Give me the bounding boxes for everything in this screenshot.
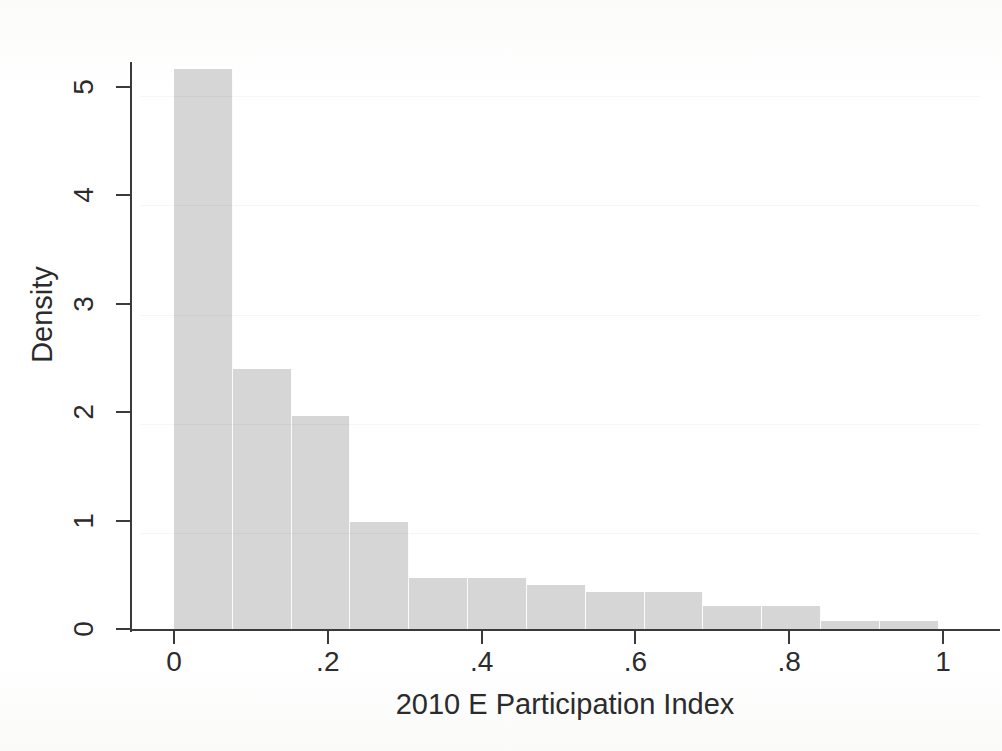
y-axis-tick [116,628,130,630]
y-axis-tick [116,86,130,88]
histogram-bar [880,621,939,629]
y-axis-tick-label: 4 [64,180,104,210]
x-axis-tick [634,631,636,644]
y-axis-tick [116,303,130,305]
y-axis-title: Density [26,235,59,395]
histogram-bar [233,369,292,629]
x-axis-title: 2010 E Participation Index [130,688,1000,721]
histogram-bar [645,592,704,629]
plot-area: 012345 0.2.4.6.81 Density 2010 E Partici… [0,0,1002,751]
x-axis-tick [942,631,944,644]
y-axis-tick-label: 5 [64,72,104,102]
scan-artifact [140,205,980,206]
y-axis-tick-label: 2 [64,397,104,427]
x-axis-tick-label: .8 [759,648,819,676]
y-axis-tick-label: 0 [64,614,104,644]
histogram-bar [586,592,645,629]
x-axis-tick-label: .4 [452,648,512,676]
x-axis-line [130,629,1000,631]
x-axis-tick [173,631,175,644]
x-axis-tick-label: .6 [605,648,665,676]
y-axis-tick [116,411,130,413]
x-axis-tick-label: 1 [913,648,973,676]
histogram-bar [468,578,527,629]
histogram-bar [527,585,586,629]
x-axis-tick-label: .2 [298,648,358,676]
histogram-figure: 012345 0.2.4.6.81 Density 2010 E Partici… [0,0,1002,751]
x-axis-tick [327,631,329,644]
x-axis-tick [481,631,483,644]
histogram-bar [821,621,880,629]
y-axis-tick-label: 3 [64,289,104,319]
histogram-bar [350,522,409,629]
y-axis-line [130,62,132,632]
y-axis-tick [116,194,130,196]
x-axis-tick-label: 0 [144,648,204,676]
y-axis-tick-label: 1 [64,506,104,536]
scan-artifact [140,96,980,97]
scan-artifact [140,315,980,316]
x-axis-tick [788,631,790,644]
y-axis-tick [116,520,130,522]
histogram-bar [703,606,762,629]
histogram-bar [292,416,351,629]
histogram-bar [174,69,233,629]
histogram-bar [762,606,821,629]
histogram-bar [409,578,468,629]
